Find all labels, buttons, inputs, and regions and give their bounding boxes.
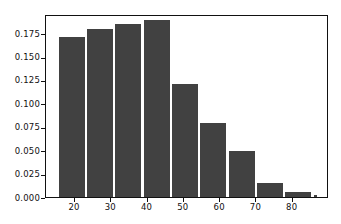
bar — [59, 37, 85, 197]
x-tick-label: 60 — [214, 203, 225, 212]
bars-container — [46, 16, 327, 197]
bar — [285, 192, 311, 197]
x-tick-label: 80 — [286, 203, 297, 212]
x-tick-label: 40 — [141, 203, 152, 212]
histogram-figure: 0.0000.0250.0500.0750.1000.1250.1500.175… — [0, 0, 341, 224]
bar — [257, 183, 283, 197]
bar — [87, 29, 113, 197]
x-tick-label: 50 — [177, 203, 188, 212]
x-tick-label: 30 — [105, 203, 116, 212]
x-tick-label: 70 — [250, 203, 261, 212]
bar — [115, 24, 141, 197]
bar — [144, 20, 170, 197]
bar — [314, 195, 317, 197]
bar — [229, 151, 255, 197]
x-tick-label: 20 — [68, 203, 79, 212]
bar — [200, 123, 226, 197]
bar — [172, 84, 198, 197]
plot-axes — [45, 15, 328, 198]
